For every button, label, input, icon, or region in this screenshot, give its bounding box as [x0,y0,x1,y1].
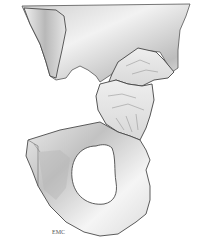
pelvic-bone-drawing [0,0,211,246]
artist-signature: EMC [52,229,65,235]
